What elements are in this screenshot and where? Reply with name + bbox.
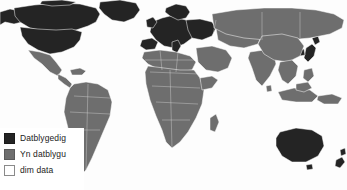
legend-swatch-no-data [4,165,15,176]
region-tasmania [306,164,313,170]
legend-swatch-developed [4,133,15,144]
world-map-figure: Datblygedig Yn datblygu dim data [0,0,347,190]
legend-item-no-data[interactable]: dim data [2,163,82,178]
legend-item-developing[interactable]: Yn datblygu [2,147,82,162]
legend-label-developing: Yn datblygu [20,150,66,159]
legend-label-no-data: dim data [20,166,53,175]
legend-item-developed[interactable]: Datblygedig [2,131,82,146]
region-sri-lanka [266,85,272,92]
legend-swatch-developing [4,149,15,160]
map-legend: Datblygedig Yn datblygu dim data [0,128,84,190]
legend-label-developed: Datblygedig [20,134,66,143]
